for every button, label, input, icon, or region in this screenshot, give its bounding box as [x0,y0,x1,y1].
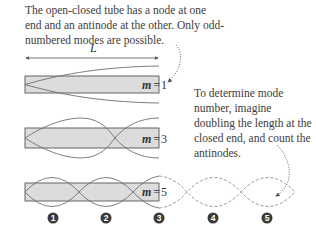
mode-number-1: 1 [161,78,167,92]
standing-wave-diagram: L m= 1 m= 3 m= 5 [0,0,316,246]
length-label: L [89,41,97,55]
antinode-marker-2: 2 [101,213,112,224]
svg-text:1: 1 [51,213,56,223]
mode-number-3: 3 [161,132,167,146]
svg-text:3: 3 [157,213,162,223]
callout-arrow-right [276,145,289,196]
doubled-length-dashed-wave [159,176,295,208]
tube-mode-5: m= 5 [25,176,167,208]
svg-text:m=: m= [142,185,160,199]
mode-number-5: 5 [161,185,167,199]
callout-arrow-top [168,45,181,82]
svg-text:2: 2 [104,213,109,223]
svg-text:m=: m= [142,132,160,146]
svg-text:5: 5 [265,213,270,223]
antinode-marker-3: 3 [154,213,165,224]
length-dimension-arrow: L [26,41,158,58]
tube-mode-1: m= 1 [25,66,167,103]
antinode-marker-1: 1 [48,213,59,224]
svg-text:4: 4 [211,213,216,223]
tube-mode-3: m= 3 [25,118,167,158]
mode-variable: m [142,78,151,92]
antinode-marker-5: 5 [262,213,273,224]
antinode-marker-4: 4 [208,213,219,224]
svg-text:m=: m= [142,78,160,92]
